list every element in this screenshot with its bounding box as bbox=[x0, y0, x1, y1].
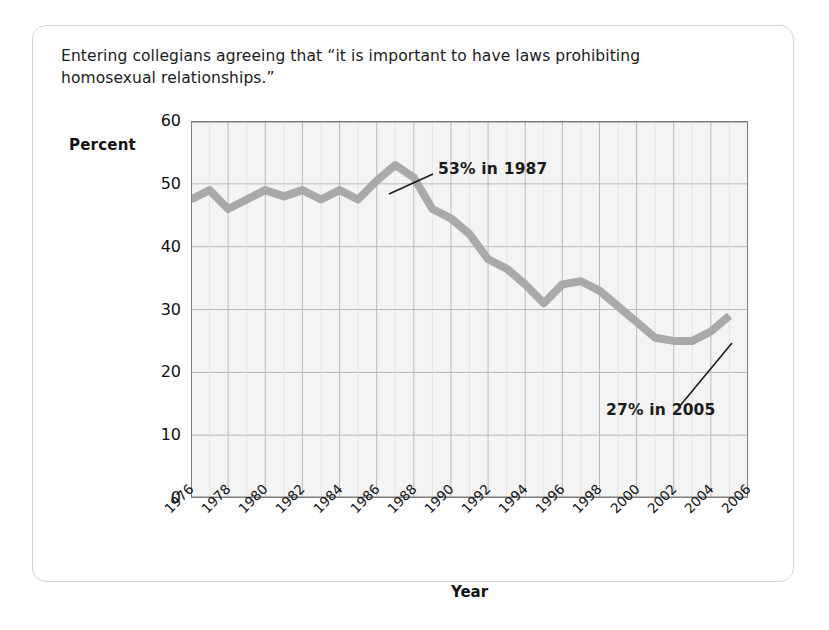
y-tick-label-60: 60 bbox=[141, 111, 181, 130]
y-tick-label-50: 50 bbox=[141, 174, 181, 193]
figure-caption: Entering collegians agreeing that “it is… bbox=[61, 45, 661, 90]
x-tick-label-1976: 1976 bbox=[161, 481, 197, 517]
figure-card: Entering collegians agreeing that “it is… bbox=[32, 25, 794, 582]
data-series-line bbox=[191, 165, 729, 341]
x-axis-title: Year bbox=[191, 583, 748, 601]
y-tick-label-30: 30 bbox=[141, 300, 181, 319]
y-tick-label-20: 20 bbox=[141, 362, 181, 381]
chart-plot-frame: 0102030405060 19761978198019821984198619… bbox=[191, 121, 748, 498]
y-axis-title: Percent bbox=[69, 136, 136, 154]
annotation-peak-label: 53% in 1987 bbox=[438, 160, 548, 178]
y-tick-label-40: 40 bbox=[141, 237, 181, 256]
y-tick-label-10: 10 bbox=[141, 425, 181, 444]
annotation-end-label: 27% in 2005 bbox=[606, 401, 716, 419]
